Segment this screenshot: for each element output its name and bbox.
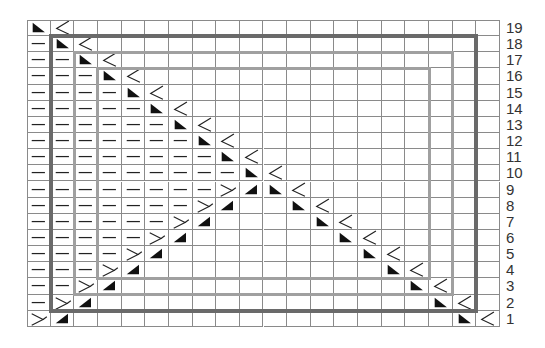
chart-cell — [358, 20, 382, 36]
chart-cell — [287, 52, 311, 68]
dash-icon — [51, 230, 74, 245]
chevron-y-left-icon — [98, 262, 121, 277]
chart-cell — [145, 52, 169, 68]
chart-cell — [287, 133, 311, 149]
chart-cell — [429, 246, 453, 262]
dash-icon — [74, 214, 97, 229]
chart-cell — [169, 133, 193, 149]
dash-icon — [216, 165, 239, 180]
chart-cell — [240, 262, 264, 278]
chart-cell — [193, 101, 217, 117]
chart-cell — [476, 230, 500, 246]
chart-cell — [405, 262, 429, 278]
chart-cell — [216, 278, 240, 294]
chart-cell — [145, 198, 169, 214]
chart-cell — [98, 165, 122, 181]
chart-cell — [122, 198, 146, 214]
dash-icon — [51, 278, 74, 293]
chart-cell — [240, 214, 264, 230]
chart-cell — [27, 52, 51, 68]
chart-cell — [476, 52, 500, 68]
dash-icon — [27, 278, 50, 293]
chart-cell — [27, 117, 51, 133]
chart-cell — [476, 36, 500, 52]
chart-cell — [358, 246, 382, 262]
chart-cell — [405, 165, 429, 181]
dash-icon — [98, 133, 121, 148]
chart-cell — [51, 230, 75, 246]
chart-cell — [145, 246, 169, 262]
chart-cell — [287, 20, 311, 36]
triangle-left-icon — [74, 52, 97, 67]
chart-cell — [240, 182, 264, 198]
chart-cell — [429, 230, 453, 246]
chart-cell — [382, 85, 406, 101]
dash-icon — [74, 85, 97, 100]
chart-cell — [429, 295, 453, 311]
chart-cell — [264, 36, 288, 52]
chart-cell — [74, 295, 98, 311]
chart-cell — [122, 295, 146, 311]
chart-cell — [429, 20, 453, 36]
dash-icon — [145, 182, 168, 197]
chart-cell — [240, 311, 264, 327]
chart-cell — [382, 117, 406, 133]
dash-icon — [98, 85, 121, 100]
triangle-left-icon — [145, 101, 168, 116]
chart-cell — [287, 149, 311, 165]
chart-cell — [311, 117, 335, 133]
chart-cell — [429, 133, 453, 149]
chart-cell — [358, 262, 382, 278]
dash-icon — [27, 214, 50, 229]
chart-cell — [429, 262, 453, 278]
chart-cell — [51, 20, 75, 36]
chart-cell — [74, 52, 98, 68]
chart-cell — [51, 182, 75, 198]
chart-cell — [51, 52, 75, 68]
chart-cell — [169, 20, 193, 36]
triangle-left-icon — [169, 117, 192, 132]
chart-cell — [240, 133, 264, 149]
chart-cell — [405, 68, 429, 84]
chart-cell — [216, 165, 240, 181]
chart-cell — [429, 68, 453, 84]
chart-cell — [264, 52, 288, 68]
chart-cell — [193, 36, 217, 52]
chart-cell — [98, 230, 122, 246]
chart-cell — [287, 230, 311, 246]
chart-cell — [311, 246, 335, 262]
chart-cell — [311, 149, 335, 165]
chart-cell — [193, 133, 217, 149]
chart-cell — [476, 101, 500, 117]
dash-icon — [98, 101, 121, 116]
row-label: 16 — [506, 68, 523, 84]
chart-cell — [264, 295, 288, 311]
triangle-left-icon — [334, 230, 357, 245]
chart-cell — [27, 20, 51, 36]
dash-icon — [27, 230, 50, 245]
chart-cell — [429, 278, 453, 294]
chevron-y-right-icon — [311, 198, 334, 213]
dash-icon — [27, 52, 50, 67]
row-label: 3 — [506, 278, 514, 294]
dash-icon — [169, 182, 192, 197]
chart-cell — [382, 198, 406, 214]
dash-icon — [51, 85, 74, 100]
chart-cell — [264, 133, 288, 149]
chart-cell — [429, 149, 453, 165]
dash-icon — [98, 246, 121, 261]
chart-cell — [74, 230, 98, 246]
dash-icon — [51, 198, 74, 213]
dash-icon — [51, 165, 74, 180]
dash-icon — [145, 117, 168, 132]
chart-cell — [311, 165, 335, 181]
triangle-left-icon — [453, 311, 476, 326]
chart-cell — [27, 214, 51, 230]
chart-cell — [98, 20, 122, 36]
chart-cell — [429, 85, 453, 101]
chart-cell — [98, 198, 122, 214]
chart-cell — [145, 278, 169, 294]
chart-cell — [51, 198, 75, 214]
chart-cell — [382, 133, 406, 149]
dash-icon — [27, 295, 50, 310]
